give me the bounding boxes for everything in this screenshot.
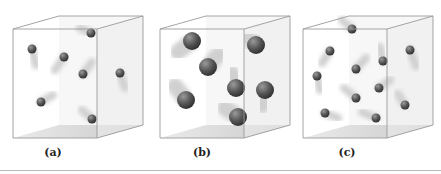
gas-molecule [352, 65, 361, 74]
gas-molecule [183, 32, 201, 50]
gas-molecule [227, 79, 245, 97]
cube-panel-c [303, 16, 433, 138]
gas-molecule [375, 84, 384, 93]
gas-molecule [247, 36, 265, 54]
gas-molecule [37, 98, 46, 107]
panel-label-c: (c) [338, 146, 355, 159]
gas-molecule [199, 58, 217, 76]
gas-molecules-diagram [0, 0, 441, 174]
gas-molecule [379, 57, 388, 66]
gas-molecule [79, 70, 88, 79]
gas-molecule [256, 81, 274, 99]
gas-molecule [401, 101, 410, 110]
gas-molecule [352, 94, 361, 103]
cube-panel-a [13, 16, 143, 138]
gas-molecule [87, 29, 96, 38]
gas-molecule [28, 45, 37, 54]
gas-molecule [313, 72, 322, 81]
figure-separator [0, 170, 441, 171]
gas-molecule [406, 46, 415, 55]
panel-label-a: (a) [44, 146, 62, 159]
cube-panel-b [160, 16, 290, 138]
gas-molecule [60, 53, 69, 62]
gas-molecule [372, 114, 381, 123]
gas-molecule [88, 115, 97, 124]
gas-molecule [321, 109, 330, 118]
gas-molecule [177, 91, 195, 109]
gas-molecule [326, 47, 335, 56]
gas-molecule [116, 69, 125, 78]
panel-label-b: (b) [193, 146, 211, 159]
